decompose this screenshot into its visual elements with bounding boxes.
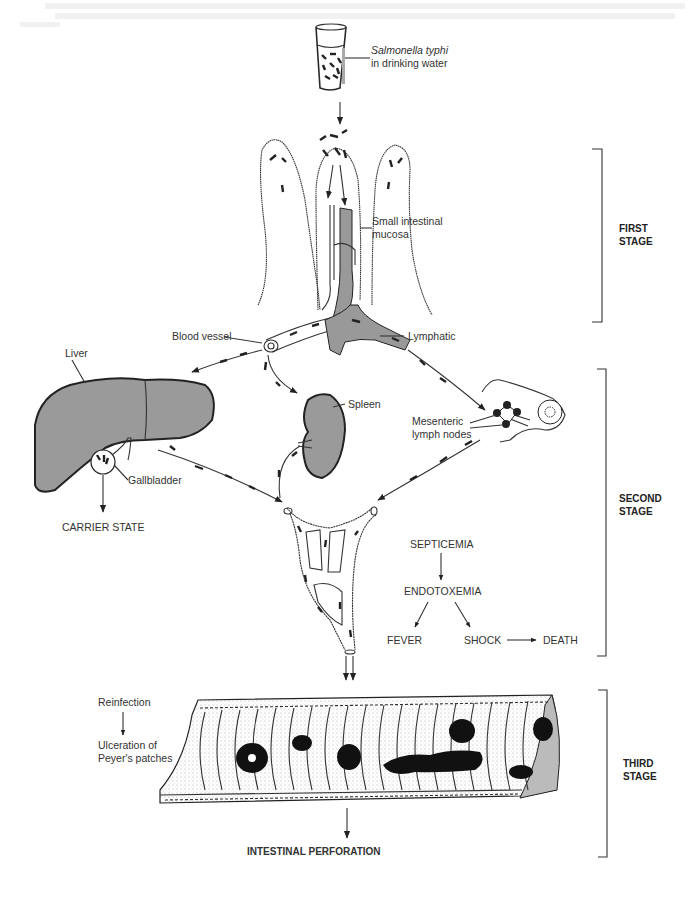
- typhoid-pathogenesis-diagram: Salmonella typhi in drinking water Small…: [0, 0, 698, 897]
- ulceration-label-2: Peyer's patches: [98, 752, 172, 764]
- arrow-endotoxemia-shock: [455, 602, 470, 627]
- shock-label: SHOCK: [464, 634, 501, 646]
- liver: [35, 378, 214, 491]
- organism-label: Salmonella typhi: [371, 44, 449, 56]
- ulceration-label-1: Ulceration of: [98, 739, 157, 751]
- third-stage-bracket: [598, 690, 607, 857]
- first-stage-line1: FIRST: [619, 223, 648, 234]
- first-stage-line2: STAGE: [619, 236, 653, 247]
- spleen: [298, 394, 345, 478]
- first-stage-bracket: [592, 149, 602, 322]
- blood-vessel-label: Blood vessel: [172, 330, 232, 342]
- intestinal-perforation-label: INTESTINAL PERFORATION: [247, 846, 381, 857]
- lymphatic-label: Lymphatic: [408, 330, 455, 342]
- septicemia-label: SEPTICEMIA: [410, 538, 474, 550]
- second-stage-line1: SECOND: [619, 493, 662, 504]
- mesenteric-label-1: Mesenteric: [412, 415, 463, 427]
- water-glass: [316, 24, 370, 90]
- second-stage-bracket: [597, 369, 606, 656]
- medium-label: in drinking water: [371, 57, 448, 69]
- lymph-nodes: [493, 401, 521, 428]
- third-stage-line2: STAGE: [623, 771, 657, 782]
- spleen-label: Spleen: [348, 398, 381, 410]
- liver-label: Liver: [65, 347, 88, 359]
- bleed-through: [20, 3, 685, 27]
- mucosa-label-1: Small intestinal: [372, 215, 443, 227]
- intestine-segment: [160, 695, 560, 803]
- mucosa-label-2: mucosa: [372, 228, 409, 240]
- second-stage-line2: STAGE: [619, 506, 653, 517]
- gallbladder-label: Gallbladder: [128, 474, 182, 486]
- death-label: DEATH: [543, 634, 578, 646]
- bloodstream-vessel: [284, 507, 377, 654]
- third-stage-line1: THIRD: [623, 758, 654, 769]
- carrier-state-label: CARRIER STATE: [62, 521, 144, 533]
- reinfection-label: Reinfection: [98, 696, 151, 708]
- mesenteric-label-2: lymph nodes: [412, 428, 472, 440]
- arrow-endotoxemia-fever: [415, 602, 428, 627]
- endotoxemia-label: ENDOTOXEMIA: [404, 585, 481, 597]
- fever-label: FEVER: [387, 634, 422, 646]
